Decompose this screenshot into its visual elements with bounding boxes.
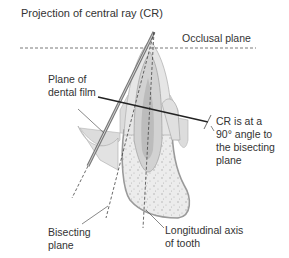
label-dental-film-2: dental film — [48, 86, 96, 98]
label-cr-2: 90° angle to — [216, 128, 272, 140]
label-cr-3: the bisecting — [216, 141, 275, 153]
cr-leader — [211, 126, 214, 131]
dental-film-extension — [72, 166, 88, 198]
bisect-leader — [82, 206, 108, 224]
label-occlusal-plane: Occlusal plane — [182, 32, 251, 44]
label-longitudinal-axis-2: of tooth — [165, 237, 200, 249]
label-bisecting-1: Bisecting — [48, 226, 91, 238]
label-longitudinal-axis-1: Longitudinal axis — [165, 224, 243, 236]
label-dental-film-1: Plane of — [48, 73, 87, 85]
label-cr-1: CR is at a — [216, 115, 262, 127]
title-projection-central-ray: Projection of central ray (CR) — [21, 7, 163, 19]
label-bisecting-2: plane — [48, 239, 74, 251]
label-cr-4: plane — [216, 154, 242, 166]
